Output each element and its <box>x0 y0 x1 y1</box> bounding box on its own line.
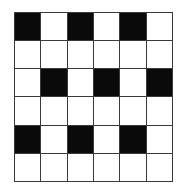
grid-cell-r6-c1 <box>15 154 41 182</box>
grid-cell-r1-c1 <box>15 13 41 41</box>
grid-cell-r3-c5 <box>120 69 146 97</box>
grid-cell-r5-c5 <box>120 126 146 154</box>
grid-cell-r1-c6 <box>147 13 173 41</box>
grid-cell-r3-c1 <box>15 69 41 97</box>
grid-cell-r6-c4 <box>94 154 120 182</box>
grid-cell-r6-c2 <box>41 154 67 182</box>
grid-cell-r2-c2 <box>41 41 67 69</box>
grid-cell-r6-c5 <box>120 154 146 182</box>
grid-cell-r2-c3 <box>68 41 94 69</box>
grid-cell-r5-c4 <box>94 126 120 154</box>
grid-cell-r2-c4 <box>94 41 120 69</box>
grid-cell-r1-c4 <box>94 13 120 41</box>
grid-pattern <box>14 12 173 182</box>
grid-cell-r1-c5 <box>120 13 146 41</box>
grid-cell-r4-c1 <box>15 97 41 125</box>
grid-cell-r3-c2 <box>41 69 67 97</box>
grid-cell-r5-c2 <box>41 126 67 154</box>
grid-cell-r2-c6 <box>147 41 173 69</box>
grid-cell-r1-c2 <box>41 13 67 41</box>
grid-cell-r6-c3 <box>68 154 94 182</box>
grid-cell-r1-c3 <box>68 13 94 41</box>
grid-cell-r4-c3 <box>68 97 94 125</box>
grid-cell-r5-c3 <box>68 126 94 154</box>
grid-cell-r3-c3 <box>68 69 94 97</box>
grid-cell-r3-c6 <box>147 69 173 97</box>
grid-cell-r2-c5 <box>120 41 146 69</box>
grid-cell-r6-c6 <box>147 154 173 182</box>
grid-cell-r3-c4 <box>94 69 120 97</box>
grid-cell-r5-c6 <box>147 126 173 154</box>
grid-cell-r4-c5 <box>120 97 146 125</box>
figure-canvas <box>0 0 185 195</box>
grid-cell-r2-c1 <box>15 41 41 69</box>
grid-cell-r4-c4 <box>94 97 120 125</box>
grid-cell-r4-c6 <box>147 97 173 125</box>
grid-cell-r5-c1 <box>15 126 41 154</box>
grid-cell-r4-c2 <box>41 97 67 125</box>
